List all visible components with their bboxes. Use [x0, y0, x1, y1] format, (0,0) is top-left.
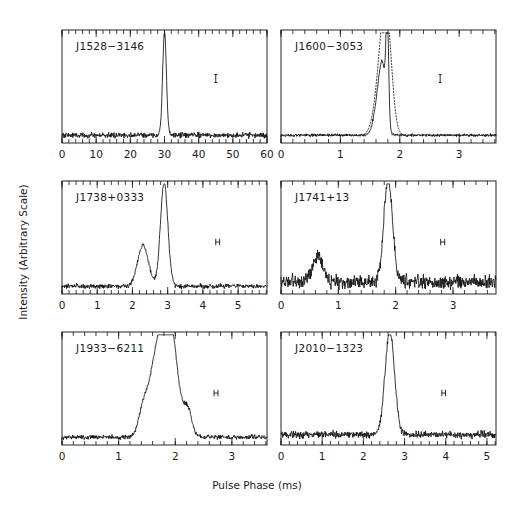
x-tick-label: 3 — [450, 299, 457, 311]
resolution-bar-marker — [439, 75, 442, 83]
resolution-bar-marker — [214, 390, 218, 396]
x-tick-label: 1 — [115, 450, 122, 462]
panel-j2010-1323: 012345J2010−1323 — [278, 332, 496, 462]
x-tick-label: 0 — [59, 148, 66, 160]
panel-label: J1600−3053 — [294, 40, 363, 52]
x-tick-label: 2 — [392, 299, 399, 311]
panel-j1741+13: 0123J1741+13 — [278, 181, 496, 311]
x-tick-label: 50 — [226, 148, 239, 160]
x-tick-label: 2 — [129, 299, 136, 311]
panel-j1933-6211: 0123J1933−6211 — [59, 332, 267, 462]
panel-j1738+0333: 012345J1738+0333 — [59, 181, 267, 311]
panel-label: J2010−1323 — [294, 342, 363, 354]
x-tick-label: 3 — [164, 299, 171, 311]
panel-label: J1528−3146 — [75, 40, 144, 52]
panel-label: J1933−6211 — [75, 342, 144, 354]
x-tick-label: 2 — [360, 450, 367, 462]
panel-label: J1741+13 — [294, 191, 349, 203]
x-tick-label: 1 — [319, 450, 326, 462]
resolution-bar-marker — [441, 239, 445, 245]
x-tick-label: 5 — [484, 450, 491, 462]
x-tick-label: 0 — [278, 148, 285, 160]
y-axis-title: Intensity (Arbitrary Scale) — [17, 184, 29, 319]
x-tick-label: 4 — [200, 299, 207, 311]
x-tick-label: 30 — [158, 148, 171, 160]
panel-label: J1738+0333 — [75, 191, 144, 203]
profile-grid: 0102030405060J1528−31460123J1600−3053012… — [0, 0, 514, 509]
resolution-bar-marker — [216, 239, 220, 245]
resolution-bar-marker — [214, 75, 217, 83]
x-tick-label: 4 — [442, 450, 449, 462]
x-tick-label: 0 — [59, 450, 66, 462]
x-tick-label: 3 — [401, 450, 408, 462]
x-tick-label: 0 — [59, 299, 66, 311]
x-tick-label: 0 — [278, 450, 285, 462]
x-tick-label: 10 — [89, 148, 102, 160]
panel-j1600-3053: 0123J1600−3053 — [278, 30, 496, 160]
pulsar-profile-figure: 0102030405060J1528−31460123J1600−3053012… — [0, 0, 514, 509]
x-tick-label: 1 — [94, 299, 101, 311]
x-tick-label: 1 — [335, 299, 342, 311]
x-tick-label: 2 — [396, 148, 403, 160]
x-tick-label: 5 — [235, 299, 242, 311]
x-tick-label: 3 — [456, 148, 463, 160]
x-tick-label: 60 — [260, 148, 273, 160]
x-tick-label: 3 — [229, 450, 236, 462]
panel-j1528-3146: 0102030405060J1528−3146 — [59, 30, 274, 160]
resolution-bar-marker — [442, 390, 446, 396]
x-axis-title: Pulse Phase (ms) — [212, 479, 302, 491]
x-tick-label: 20 — [124, 148, 137, 160]
x-tick-label: 40 — [192, 148, 205, 160]
x-tick-label: 0 — [278, 299, 285, 311]
x-tick-label: 2 — [172, 450, 179, 462]
x-tick-label: 1 — [337, 148, 344, 160]
